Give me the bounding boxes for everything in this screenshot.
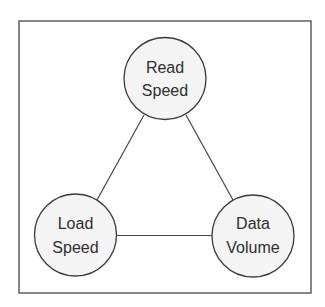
node-load-speed-label-line-2: Speed bbox=[52, 239, 98, 256]
node-read-speed-circle bbox=[124, 38, 206, 120]
node-data-volume-label-line-2: Volume bbox=[226, 239, 279, 256]
node-read-speed: Read Speed bbox=[124, 38, 206, 120]
node-read-speed-label-line-2: Speed bbox=[142, 82, 188, 99]
tradeoff-diagram: Read Speed Load Speed Data Volume bbox=[0, 0, 325, 307]
node-data-volume-circle bbox=[212, 195, 294, 277]
node-read-speed-label-line-1: Read bbox=[146, 59, 184, 76]
node-load-speed-label-line-1: Load bbox=[58, 215, 94, 232]
node-data-volume-label-line-1: Data bbox=[236, 215, 270, 232]
node-load-speed: Load Speed bbox=[35, 194, 117, 276]
node-load-speed-circle bbox=[35, 194, 117, 276]
node-data-volume: Data Volume bbox=[212, 195, 294, 277]
